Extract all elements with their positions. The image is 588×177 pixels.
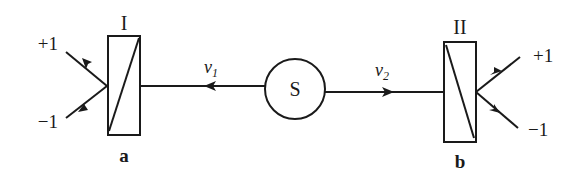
right-minus-label: −1 <box>528 119 548 140</box>
analyzer-right: II b <box>444 16 476 172</box>
analyzer-left-roman-label: I <box>121 12 128 34</box>
diagram-canvas: I a +1 −1 v1 S v2 II b +1 <box>0 0 588 177</box>
source: S <box>265 59 325 119</box>
analyzer-right-roman-label: II <box>453 16 466 38</box>
right-plus-output-line <box>476 57 520 92</box>
analyzer-left-outputs: +1 −1 <box>38 33 107 132</box>
analyzer-right-outputs: +1 −1 <box>476 45 553 140</box>
beam-right-label: v2 <box>375 60 389 83</box>
analyzer-left: I a <box>108 12 140 166</box>
beam-right: v2 <box>325 60 444 97</box>
beam-left: v1 <box>140 57 265 91</box>
left-minus-label: −1 <box>38 111 58 132</box>
left-plus-output-line <box>66 52 107 86</box>
analyzer-right-letter-label: b <box>455 151 466 172</box>
analyzer-right-diagonal <box>446 45 474 138</box>
source-label: S <box>289 78 300 100</box>
left-plus-label: +1 <box>38 33 58 54</box>
beam-left-label: v1 <box>204 57 218 80</box>
right-plus-label: +1 <box>533 45 553 66</box>
analyzer-left-diagonal <box>109 38 139 131</box>
analyzer-left-letter-label: a <box>119 145 129 166</box>
left-minus-output-line <box>66 86 107 118</box>
